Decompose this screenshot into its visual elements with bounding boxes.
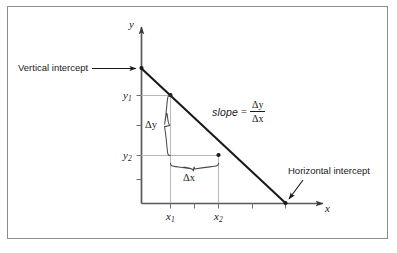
- graph-canvas: [0, 0, 397, 253]
- point-x1-y1: [168, 93, 172, 97]
- y2-tick-label: y2: [123, 150, 132, 162]
- x2-tick-label: x2: [214, 211, 223, 223]
- slope-formula-word: slope: [212, 106, 238, 118]
- slope-formula-fraction: Δy Δx: [250, 99, 265, 124]
- point-horizontal-intercept: [283, 201, 287, 205]
- x-axis-label: x: [325, 203, 330, 214]
- horizontal-intercept-label: Horizontal intercept: [288, 166, 370, 176]
- guide-lines: [142, 96, 220, 204]
- y1-tick-sub: 1: [128, 94, 132, 103]
- y-axis-label: y: [129, 19, 134, 30]
- x2-tick-sub: 2: [219, 215, 223, 224]
- y2-tick-sub: 2: [128, 154, 132, 163]
- slope-numerator: Δy: [250, 99, 265, 111]
- delta-x-label: Δx: [183, 173, 195, 184]
- delta-y-brace: [165, 96, 171, 156]
- delta-y-label: Δy: [145, 120, 157, 131]
- vertical-intercept-label: Vertical intercept: [18, 63, 88, 73]
- point-x2-y2: [216, 153, 220, 157]
- slope-formula: slope = Δy Δx: [212, 99, 265, 124]
- slope-denominator: Δx: [250, 112, 265, 124]
- figure-root: Vertical intercept Horizontal intercept …: [0, 0, 397, 253]
- x1-tick-label: x1: [166, 211, 175, 223]
- slope-formula-equals: =: [241, 106, 247, 117]
- delta-x-brace: [171, 163, 219, 171]
- function-line: [141, 68, 286, 204]
- y1-tick-label: y1: [123, 90, 132, 102]
- x1-tick-sub: 1: [171, 215, 175, 224]
- point-vertical-intercept: [139, 66, 143, 70]
- horizontal-intercept-leader: [289, 180, 303, 199]
